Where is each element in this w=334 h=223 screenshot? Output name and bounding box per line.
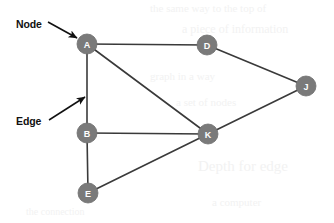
graph-edge-K-J (208, 86, 306, 134)
graph-edge-B-K (87, 133, 208, 134)
node-label-K: K (205, 130, 212, 140)
graph-edge-D-J (207, 45, 306, 86)
graph-node-D: D (197, 35, 217, 55)
graph-edge-A-K (87, 44, 208, 134)
graph-canvas: ADJBKE NodeEdge (0, 0, 334, 223)
annotations-group: NodeEdge (16, 18, 85, 127)
edge-annotation-arrow-icon (49, 97, 85, 120)
node-annotation-arrow-icon (48, 22, 77, 38)
graph-node-K: K (198, 124, 218, 144)
edges-group (87, 44, 306, 193)
node-label-E: E (85, 189, 91, 199)
node-label-A: A (84, 40, 91, 50)
graph-edge-A-D (87, 44, 207, 45)
node-label-J: J (303, 82, 308, 92)
node-label-D: D (204, 41, 211, 51)
graph-node-E: E (78, 183, 98, 203)
graph-diagram: the same way to the top ofa piece of inf… (0, 0, 334, 223)
graph-edge-E-K (88, 134, 208, 193)
nodes-group: ADJBKE (77, 34, 316, 203)
node-annotation: Node (16, 18, 77, 38)
edge-annotation: Edge (16, 97, 85, 127)
edge-annotation-text: Edge (16, 115, 42, 127)
graph-node-B: B (77, 123, 97, 143)
graph-node-A: A (77, 34, 97, 54)
node-label-B: B (84, 129, 91, 139)
node-annotation-text: Node (16, 18, 42, 30)
graph-node-J: J (296, 76, 316, 96)
